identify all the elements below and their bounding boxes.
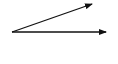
vector-diagram <box>0 0 118 64</box>
angled-arrow <box>12 4 92 32</box>
